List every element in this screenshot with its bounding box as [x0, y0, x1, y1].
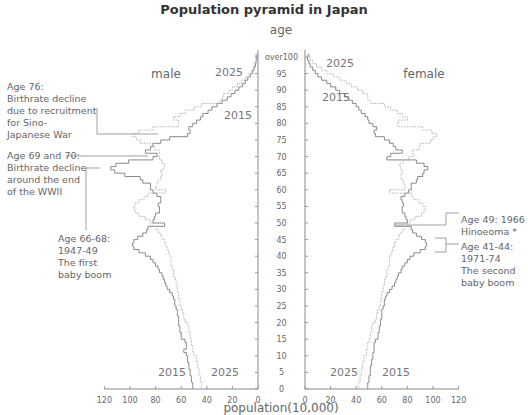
- annotation-leader: [97, 108, 158, 134]
- bar-male-2015: [180, 326, 258, 329]
- year-label-male-2015: 2015: [224, 109, 252, 122]
- annotation-line: Birthrate decline: [7, 93, 87, 104]
- bar-female-2025: [305, 110, 397, 113]
- bar-female-2025: [305, 319, 375, 322]
- bar-female-2025: [305, 359, 364, 362]
- bar-male-2025: [156, 186, 258, 189]
- bar-female-2015: [305, 346, 374, 349]
- bar-male-2025: [191, 339, 258, 342]
- bar-male-2025: [154, 147, 258, 150]
- annotation-text: Age 41-44:1971-74The secondbaby boom: [460, 241, 516, 288]
- bar-female-2015: [305, 147, 396, 150]
- bar-male-2015: [165, 223, 258, 226]
- bar-male-2025: [135, 203, 258, 206]
- annotation-age41-44: Age 41-44:1971-74The secondbaby boom: [435, 238, 516, 288]
- bar-male-2025: [158, 230, 258, 233]
- bar-female-2025: [305, 180, 404, 183]
- bar-male-2025: [157, 183, 258, 186]
- bar-female-2025: [305, 296, 382, 299]
- bar-male-2015: [179, 323, 258, 326]
- series-male-2025: [133, 54, 258, 389]
- bar-female-2015: [305, 186, 411, 189]
- bar-male-2025: [197, 356, 258, 359]
- bar-female-2025: [305, 279, 384, 282]
- bar-male-2025: [163, 167, 258, 170]
- bar-female-2015: [305, 150, 402, 153]
- bar-male-2015: [176, 306, 258, 309]
- bar-male-2025: [175, 276, 258, 279]
- bar-female-2015: [305, 137, 384, 140]
- y-tick-label: 60: [276, 186, 286, 195]
- bar-male-2025: [150, 220, 258, 223]
- bar-male-2025: [191, 343, 258, 346]
- y-tick-label: 25: [276, 302, 286, 311]
- bar-male-2015: [116, 163, 258, 166]
- annotation-line: The first: [57, 257, 98, 268]
- bar-female-2015: [305, 107, 359, 110]
- annotations: Age 76:Birthrate declinedue to recruitme…: [6, 81, 525, 288]
- bar-male-2025: [181, 306, 258, 309]
- bar-male-2025: [193, 346, 258, 349]
- bar-female-2025: [305, 349, 366, 352]
- bar-female-2025: [305, 130, 432, 133]
- bar-male-2025: [180, 299, 258, 302]
- bar-female-2025: [305, 203, 423, 206]
- population-pyramid-chart: Population pyramid in Japan age male fem…: [0, 0, 528, 415]
- bar-female-2025: [305, 143, 420, 146]
- bar-male-2015: [150, 186, 258, 189]
- bar-female-2025: [305, 133, 437, 136]
- bar-female-2025: [305, 273, 387, 276]
- annotation-line: 1971-74: [461, 253, 501, 264]
- annotation-text: Age 66-68:1947-49The firstbaby boom: [57, 233, 111, 280]
- bar-male-2025: [189, 326, 258, 329]
- bar-female-2015: [305, 359, 372, 362]
- bar-female-2025: [305, 113, 402, 116]
- bar-male-2015: [150, 256, 258, 259]
- bar-male-2015: [153, 190, 258, 193]
- bar-female-2015: [305, 283, 395, 286]
- bar-female-2025: [305, 167, 401, 170]
- annotation-line: Hinoeoma *: [461, 226, 517, 237]
- bar-female-2025: [305, 313, 377, 316]
- bar-female-2015: [305, 243, 427, 246]
- bar-male-2025: [159, 157, 258, 160]
- bar-male-2015: [133, 243, 258, 246]
- bar-male-2015: [138, 236, 258, 239]
- bar-male-2025: [188, 323, 258, 326]
- bar-female-2025: [305, 329, 372, 332]
- bar-female-2025: [305, 243, 395, 246]
- annotation-line: of the WWII: [7, 186, 62, 197]
- annotation-line: due to recruitment: [7, 105, 97, 116]
- bar-female-2025: [305, 177, 401, 180]
- bar-male-2015: [134, 246, 258, 249]
- bar-female-2015: [305, 256, 410, 259]
- bar-male-2015: [157, 193, 258, 196]
- annotation-text: Age 76:Birthrate declinedue to recruitme…: [6, 81, 97, 140]
- bar-female-2015: [305, 240, 425, 243]
- bar-male-2015: [184, 349, 258, 352]
- bar-female-2025: [305, 163, 400, 166]
- bar-female-2015: [305, 273, 398, 276]
- bar-male-2025: [134, 206, 258, 209]
- bar-female-2025: [305, 107, 391, 110]
- bar-male-2025: [161, 177, 258, 180]
- bar-female-2025: [305, 223, 407, 226]
- bar-male-2025: [174, 273, 258, 276]
- year-label-female-2015: 2015: [322, 91, 350, 104]
- bar-female-2015: [305, 343, 374, 346]
- bar-female-2015: [305, 349, 374, 352]
- bar-female-2015: [305, 216, 406, 219]
- bar-male-2025: [161, 170, 258, 173]
- female-x-tick-label: 40: [351, 396, 361, 405]
- bar-male-2025: [167, 246, 258, 249]
- bar-female-2015: [305, 323, 381, 326]
- series-line-male-2015: [111, 54, 257, 389]
- bar-male-2015: [115, 170, 258, 173]
- bar-male-2025: [153, 223, 258, 226]
- bar-male-2015: [159, 210, 258, 213]
- bar-female-2025: [305, 343, 368, 346]
- bar-male-2015: [188, 133, 258, 136]
- bar-female-2015: [305, 140, 389, 143]
- y-tick-label: 30: [276, 285, 286, 294]
- annotation-line: baby boom: [58, 269, 111, 280]
